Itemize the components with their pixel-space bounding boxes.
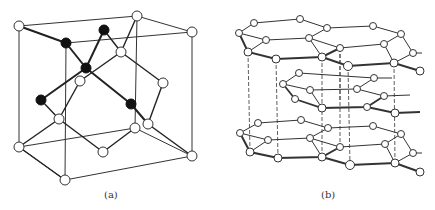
panel-b-label: (b): [321, 189, 335, 200]
graphite-layer-middle: [283, 73, 420, 113]
panel-b-graphite-lattice: [236, 16, 425, 177]
panel-a-diamond-lattice: [14, 11, 197, 185]
crystal-structures-figure: [0, 0, 435, 210]
bonds: [19, 26, 148, 124]
panel-a-label: (a): [104, 189, 118, 200]
